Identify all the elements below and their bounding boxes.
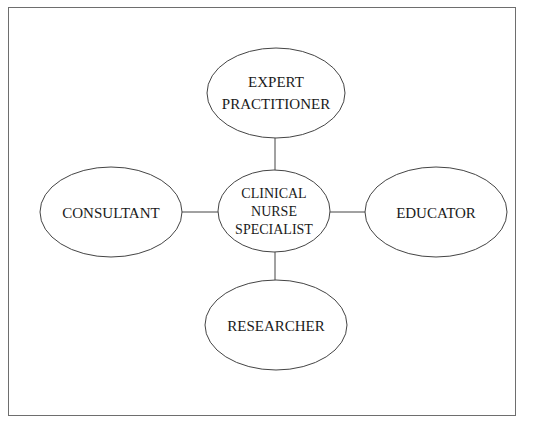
node-clinical-nurse-specialist: CLINICAL NURSE SPECIALIST xyxy=(218,170,330,252)
node-label-line: SPECIALIST xyxy=(235,222,313,237)
node-label-line: NURSE xyxy=(251,204,297,219)
node-educator: EDUCATOR xyxy=(365,167,507,257)
node-consultant: CONSULTANT xyxy=(40,167,182,257)
node-label-line: PRACTITIONER xyxy=(222,96,330,112)
node-label-line: CONSULTANT xyxy=(62,205,159,221)
role-diagram: EXPERT PRACTITIONER CLINICAL NURSE SPECI… xyxy=(0,0,551,425)
node-expert-practitioner: EXPERT PRACTITIONER xyxy=(207,48,345,138)
node-label-line: EDUCATOR xyxy=(396,205,476,221)
node-label-line: EXPERT xyxy=(248,74,304,90)
node-label-line: CLINICAL xyxy=(241,186,306,201)
node-researcher: RESEARCHER xyxy=(205,280,347,370)
node-label-line: RESEARCHER xyxy=(227,318,325,334)
